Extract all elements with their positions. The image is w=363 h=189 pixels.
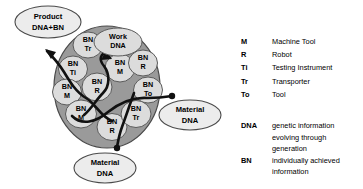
cell-work-dna[interactable]: WorkDNA (94, 28, 142, 56)
cell-bn-r-center-line2: R (94, 86, 100, 95)
cell-bn-m-left-line2: M (64, 91, 70, 100)
product-dna-bn-line2: DNA+BN (32, 23, 64, 32)
definition-abbr-dna: DNA (241, 121, 258, 130)
material-dna-bottom-line2: DNA (97, 169, 114, 178)
legend-row-tr: TrTransporter (241, 77, 310, 86)
legend-meaning-ti: Testing Instrument (272, 63, 332, 72)
legend-meaning-tr: Transporter (272, 77, 310, 86)
cell-bn-r-right[interactable]: BNR (129, 50, 158, 76)
cell-bn-m-mid-line1: BN (115, 58, 125, 67)
cell-bn-m-lower-line1: BN (76, 104, 86, 113)
legend-meaning-r: Robot (272, 50, 292, 59)
legend-row-to: ToTool (241, 90, 286, 99)
abbreviation-legend: MMachine ToolRRobotTiTesting InstrumentT… (241, 37, 332, 99)
definition-legend: DNAgenetic informationevolving throughge… (241, 121, 340, 176)
biological-manufacturing-system-diagram: BNTrBNTiBNMBNRBNMBNRBNToBNMBNRBNTr WorkD… (0, 0, 363, 189)
material-dna-bottom[interactable]: MaterialDNA (74, 153, 136, 183)
cell-bn-m-mid-line2: M (117, 67, 123, 76)
diagram-canvas: BNTrBNTiBNMBNRBNMBNRBNToBNMBNRBNTr WorkD… (0, 0, 363, 189)
cell-bn-tr-lower-line1: BN (131, 104, 141, 113)
work-dna-nucleus: WorkDNA (94, 28, 142, 56)
legend-row-r: RRobot (241, 50, 292, 59)
cell-bn-r-bottom-line2: R (109, 126, 115, 135)
definition-line-bn-1: information (272, 167, 309, 176)
legend-row-m: MMachine Tool (241, 37, 316, 46)
definition-line-dna-0: genetic information (272, 121, 334, 130)
cell-bn-r-center-line1: BN (92, 77, 102, 86)
definition-row-bn: BNindividually achievedinformation (241, 156, 340, 177)
material-dna-bottom-line1: Material (91, 158, 120, 167)
definition-abbr-bn: BN (241, 156, 252, 165)
cell-bn-ti-line2: Ti (70, 68, 76, 77)
definition-line-dna-1: evolving through (272, 133, 326, 142)
definition-line-dna-2: generation (272, 144, 307, 153)
cell-bn-tr-top-line1: BN (83, 35, 93, 44)
product-dna-bn[interactable]: ProductDNA+BN (15, 6, 81, 38)
material-dna-right[interactable]: MaterialDNA (159, 100, 221, 130)
cell-bn-r-right-line1: BN (138, 53, 148, 62)
legend-meaning-m: Machine Tool (272, 37, 316, 46)
legend-row-ti: TiTesting Instrument (241, 63, 332, 72)
legend-abbr-tr: Tr (241, 77, 248, 86)
cell-bn-ti-line1: BN (68, 59, 78, 68)
legend-abbr-m: M (241, 37, 247, 46)
cell-bn-to-line1: BN (143, 80, 153, 89)
legend-meaning-to: Tool (272, 90, 286, 99)
legend-abbr-to: To (241, 90, 250, 99)
material-dna-right-line2: DNA (182, 116, 199, 125)
cell-bn-tr-lower-line2: Tr (133, 113, 140, 122)
legend-abbr-ti: Ti (241, 63, 247, 72)
legend-abbr-r: R (241, 50, 247, 59)
cell-work-dna-line2: DNA (110, 41, 126, 50)
product-dna-bn-line1: Product (34, 12, 63, 21)
cell-work-dna-line1: Work (109, 32, 127, 41)
definition-line-bn-0: individually achieved (272, 156, 340, 165)
endpoint-dot-material-right-icon (169, 93, 175, 99)
cell-bn-tr-top-line2: Tr (85, 44, 92, 53)
material-dna-right-line1: Material (176, 105, 205, 114)
definition-row-dna: DNAgenetic informationevolving throughge… (241, 121, 334, 153)
endpoint-dot-material-bottom-icon (114, 145, 120, 151)
cell-bn-r-right-line2: R (140, 62, 146, 71)
